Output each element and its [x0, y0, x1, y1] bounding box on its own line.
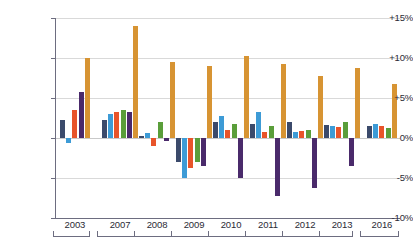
gridline	[55, 58, 400, 59]
bar	[170, 62, 175, 138]
bar	[164, 138, 169, 141]
y-axis-line	[55, 18, 56, 219]
y-axis-tick-label: +15%	[371, 12, 413, 23]
bar	[299, 131, 304, 138]
bar	[127, 112, 132, 138]
bar	[151, 138, 156, 146]
bar	[158, 122, 163, 138]
y-axis-tick-mark	[51, 138, 56, 139]
x-axis-label-2013: 2013	[322, 219, 362, 230]
x-axis-segment-cap	[97, 231, 98, 237]
x-axis-label-2010: 2010	[211, 219, 251, 230]
bar	[79, 92, 84, 138]
bar	[250, 124, 255, 138]
bar	[287, 122, 292, 138]
bar	[293, 132, 298, 138]
bar	[312, 138, 317, 188]
y-axis-tick-mark	[51, 58, 56, 59]
x-axis-segment-cap	[398, 231, 399, 237]
bar	[72, 110, 77, 138]
x-axis-tick	[282, 231, 283, 237]
bar	[349, 138, 354, 166]
bar	[182, 138, 187, 178]
x-axis-label-2016: 2016	[362, 219, 402, 230]
x-axis-tick	[171, 231, 172, 237]
x-axis-labels: 200320072008200920102011201220132016	[55, 219, 400, 235]
x-axis-segment	[53, 236, 89, 237]
bar	[355, 68, 360, 138]
bar	[219, 116, 224, 138]
y-axis-tick-mark	[51, 98, 56, 99]
bar	[139, 136, 144, 138]
x-axis-tick	[319, 231, 320, 237]
plot-area	[55, 18, 400, 218]
x-axis-tick	[208, 231, 209, 237]
x-axis-segment-cap	[352, 231, 353, 237]
bar	[213, 122, 218, 138]
y-axis-tick-label: +10%	[371, 52, 413, 63]
bar	[201, 138, 206, 166]
bar	[85, 58, 90, 138]
x-axis-label-2008: 2008	[137, 219, 177, 230]
x-axis-segment	[97, 236, 352, 237]
gridline	[55, 178, 400, 179]
bar	[262, 132, 267, 138]
bar	[318, 76, 323, 138]
bar-chart: +15%+10%+5%0%-5%-10% 2003200720082009201…	[0, 0, 413, 251]
bar	[121, 110, 126, 138]
bar	[336, 127, 341, 138]
x-axis-segment-cap	[53, 231, 54, 237]
bar	[108, 114, 113, 138]
x-axis-label-2007: 2007	[100, 219, 140, 230]
gridline	[55, 98, 400, 99]
bar	[232, 124, 237, 138]
x-axis-label-2003: 2003	[55, 219, 95, 230]
x-axis-tick	[134, 231, 135, 237]
bar	[207, 66, 212, 138]
bar	[114, 112, 119, 138]
x-axis-segment	[360, 236, 398, 237]
bar	[269, 126, 274, 138]
bar	[244, 56, 249, 138]
y-axis-tick-label: -5%	[371, 172, 413, 183]
bar	[238, 138, 243, 178]
bar	[281, 64, 286, 138]
x-axis-label-2011: 2011	[248, 219, 288, 230]
x-axis-tick	[245, 231, 246, 237]
bar	[330, 126, 335, 138]
bar	[225, 130, 230, 138]
bar	[324, 125, 329, 138]
y-axis-tick-label: 0%	[371, 132, 413, 143]
bar	[102, 120, 107, 138]
bar	[133, 26, 138, 138]
bar	[256, 112, 261, 138]
bar	[275, 138, 280, 196]
bar	[306, 130, 311, 138]
bar	[188, 138, 193, 168]
x-axis-label-2012: 2012	[285, 219, 325, 230]
x-axis-segment-cap	[89, 231, 90, 237]
bar	[145, 133, 150, 138]
y-axis-tick-mark	[51, 18, 56, 19]
bar	[60, 120, 65, 138]
bar	[195, 138, 200, 162]
bar	[66, 138, 71, 143]
y-axis-tick-label: +5%	[371, 92, 413, 103]
bar	[343, 122, 348, 138]
x-axis-segment-cap	[360, 231, 361, 237]
bar	[176, 138, 181, 162]
gridline	[55, 18, 400, 19]
y-axis-tick-mark	[51, 178, 56, 179]
x-axis-label-2009: 2009	[174, 219, 214, 230]
